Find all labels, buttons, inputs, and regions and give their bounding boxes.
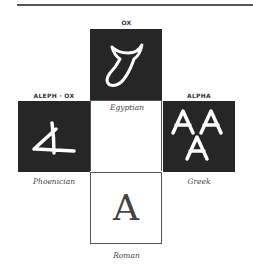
label-egyptian: Egyptian (91, 103, 163, 112)
aleph-icon (18, 101, 90, 172)
roman-box: A (90, 172, 162, 244)
top-rule (17, 4, 253, 6)
caption-aleph: ALEPH · OX (18, 92, 90, 99)
caption-ox: OX (90, 19, 163, 26)
center-box: Egyptian (90, 100, 162, 171)
label-roman: Roman (90, 251, 163, 260)
ox-head-icon (90, 29, 162, 100)
caption-alpha: ALPHA (163, 92, 235, 99)
egyptian-box (90, 29, 162, 100)
label-phoenician: Phoenician (18, 177, 90, 186)
roman-letter-a: A (91, 187, 161, 228)
greek-alpha-glyphs (163, 101, 235, 172)
label-greek: Greek (163, 177, 235, 186)
greek-box (163, 101, 235, 172)
phoenician-box (18, 101, 90, 172)
